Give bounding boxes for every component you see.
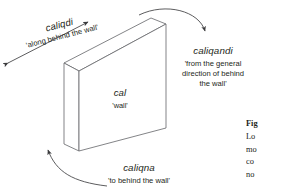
caliqandi-label: caliqandi 'from the general direction of… (163, 40, 263, 88)
wall-gloss: 'wall' (92, 102, 148, 111)
caption-line-2: mo (246, 144, 281, 157)
caliqna-term: caliqna (123, 162, 155, 173)
figure-container: cal 'wall' caliqdi 'along behind the wal… (0, 0, 281, 192)
wall-side-face (64, 63, 79, 151)
wall-object-label: cal 'wall' (92, 82, 148, 111)
caption-line-4: no (246, 169, 281, 182)
caliqandi-gloss-line-1: 'from the general (163, 59, 263, 69)
figure-caption: Fig Lo mo co no (246, 118, 281, 182)
caliqandi-term: caliqandi (193, 45, 233, 56)
caliqandi-gloss-line-3: the wall' (163, 79, 263, 89)
caliqna-gloss: 'to behind the wall' (73, 177, 205, 186)
caption-line-1: Lo (246, 131, 281, 144)
wall-term: cal (114, 87, 127, 98)
caliqandi-gloss: 'from the general direction of behind th… (163, 59, 263, 89)
caption-line-3: co (246, 156, 281, 169)
caliqandi-gloss-line-2: direction of behind (163, 69, 263, 79)
caliqna-label: caliqna 'to behind the wall' (73, 157, 205, 186)
caption-heading: Fig (246, 118, 281, 131)
